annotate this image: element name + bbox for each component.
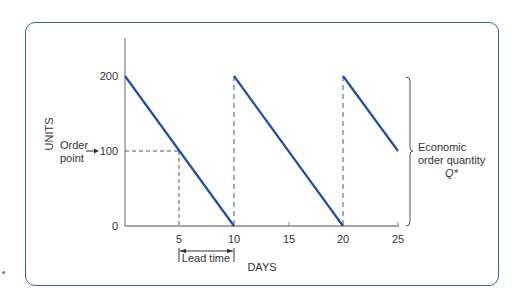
inventory-segment-3	[343, 76, 398, 151]
x-tick-label-15: 15	[283, 233, 295, 245]
x-tick-label-5: 5	[176, 233, 182, 245]
y-tick-0: 0	[112, 220, 118, 232]
inventory-segment-2	[234, 76, 343, 226]
y-axis-title: UNITS	[43, 118, 55, 151]
y-tick-200: 200	[100, 70, 118, 82]
eoq-label-line1: Economic	[418, 141, 467, 153]
order-point-arrow-icon	[94, 149, 99, 154]
order-point-label-line1: Order	[60, 139, 88, 151]
lead-time-label: Lead time	[182, 252, 230, 264]
eoq-brace-icon	[406, 77, 413, 226]
eoq-symbol: Q*	[445, 167, 459, 179]
eoq-label-line2: order quantity	[418, 154, 486, 166]
x-axis-title: DAYS	[247, 261, 276, 273]
order-point-label-line2: point	[60, 152, 84, 164]
x-tick-label-20: 20	[337, 233, 349, 245]
y-tick-100: 100	[100, 145, 118, 157]
x-tick-label-25: 25	[392, 233, 404, 245]
x-tick-label-10: 10	[228, 233, 240, 245]
inventory-chart: 200 100 0 5 10 15 20 25 UNITS DAYS Order…	[0, 0, 519, 302]
